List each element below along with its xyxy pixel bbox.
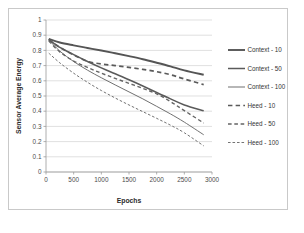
- y-tick-label: 0.1: [33, 153, 42, 160]
- x-tick-label: 500: [68, 176, 79, 183]
- legend-label: Heed - 50: [248, 120, 276, 127]
- chart-figure: 00.10.20.30.40.50.60.70.80.91 0500100015…: [0, 0, 304, 233]
- y-tick-label: 0.6: [33, 77, 42, 84]
- y-tick-label: 0.9: [33, 31, 42, 38]
- x-axis-title: Epochs: [117, 197, 142, 205]
- x-tick-label: 1000: [94, 176, 109, 183]
- y-tick-label: 0.8: [33, 47, 42, 54]
- y-tick-label: 0.3: [33, 123, 42, 130]
- chart-canvas: 00.10.20.30.40.50.60.70.80.91 0500100015…: [0, 0, 304, 233]
- legend-label: Context - 50: [248, 65, 283, 72]
- legend-label: Context - 100: [248, 83, 286, 90]
- legend-label: Heed - 10: [248, 102, 276, 109]
- x-tick-label: 0: [44, 176, 48, 183]
- y-tick-label: 0: [38, 168, 42, 175]
- legend-label: Heed - 100: [248, 139, 280, 146]
- y-tick-label: 1: [38, 16, 42, 23]
- y-tick-label: 0.5: [33, 92, 42, 99]
- x-tick-label: 3000: [205, 176, 220, 183]
- y-axis-title: Sensor Average Energy: [15, 58, 23, 134]
- y-tick-label: 0.2: [33, 138, 42, 145]
- x-tick-label: 2500: [177, 176, 192, 183]
- y-tick-label: 0.7: [33, 62, 42, 69]
- legend-label: Context - 10: [248, 46, 283, 53]
- y-tick-label: 0.4: [33, 107, 42, 114]
- x-tick-label: 1500: [122, 176, 137, 183]
- x-tick-label: 2000: [150, 176, 165, 183]
